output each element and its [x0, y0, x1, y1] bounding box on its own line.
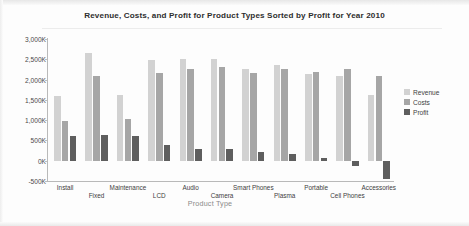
bar-fill — [376, 76, 383, 161]
bar-fill — [274, 65, 281, 161]
bar-profit[interactable] — [132, 39, 139, 181]
bar-revenue[interactable] — [368, 39, 375, 181]
legend-label: Revenue — [413, 89, 439, 96]
bar-group — [368, 39, 390, 181]
bar-fill — [281, 69, 288, 161]
x-axis-tick-label: Audio — [182, 184, 198, 191]
bar-costs[interactable] — [219, 39, 226, 181]
bar-fill — [289, 154, 296, 160]
bar-group — [242, 39, 264, 181]
legend-item[interactable]: Costs — [404, 98, 466, 107]
bar-profit[interactable] — [383, 39, 390, 181]
bar-costs[interactable] — [250, 39, 257, 181]
x-axis-tick-label: Cell Phones — [330, 192, 364, 199]
plot-area — [48, 39, 393, 181]
bar-group — [305, 39, 327, 181]
y-axis-tick-label: 2,500K — [2, 56, 46, 63]
bar-group — [211, 39, 233, 181]
bar-fill — [93, 76, 100, 161]
bar-profit[interactable] — [70, 39, 77, 181]
title-divider — [42, 28, 442, 29]
bar-fill — [344, 69, 351, 161]
y-axis-tick-label: 0K — [2, 157, 46, 164]
x-axis-tick-label: Plasma — [274, 192, 295, 199]
x-axis-tick-label: Accessories — [362, 184, 396, 191]
bar-fill — [336, 76, 343, 160]
bar-costs[interactable] — [156, 39, 163, 181]
bar-fill — [164, 145, 171, 160]
bar-profit[interactable] — [101, 39, 108, 181]
bar-fill — [211, 59, 218, 160]
chart-container: Revenue, Costs, and Profit for Product T… — [0, 0, 469, 226]
x-axis-tick-label: Camera — [211, 192, 234, 199]
y-axis-tick-label: 1,500K — [2, 96, 46, 103]
bar-revenue[interactable] — [148, 39, 155, 181]
x-axis-tick-label: Smart Phones — [233, 184, 274, 191]
bar-fill — [125, 119, 132, 161]
bar-revenue[interactable] — [305, 39, 312, 181]
bar-fill — [62, 121, 69, 161]
legend-swatch-icon — [404, 109, 410, 115]
bar-revenue[interactable] — [117, 39, 124, 181]
y-axis-tick-label: 3,000K — [2, 36, 46, 43]
x-axis-line — [47, 181, 394, 182]
bar-profit[interactable] — [195, 39, 202, 181]
x-axis-tick-label: LCD — [153, 192, 166, 199]
y-axis-tick-label: 1,000K — [2, 117, 46, 124]
bar-profit[interactable] — [226, 39, 233, 181]
bar-fill — [195, 149, 202, 161]
legend-swatch-icon — [404, 99, 410, 105]
x-axis-title: Product Type — [0, 199, 420, 208]
bar-fill — [187, 69, 194, 161]
bar-fill — [321, 158, 328, 160]
bar-revenue[interactable] — [274, 39, 281, 181]
x-axis-tick-label: Portable — [304, 184, 328, 191]
y-axis-tick-label: 500K — [2, 137, 46, 144]
bar-fill — [148, 60, 155, 161]
bar-fill — [180, 59, 187, 161]
bar-group — [274, 39, 296, 181]
scan-artifact-top — [0, 0, 469, 5]
bar-costs[interactable] — [187, 39, 194, 181]
bar-costs[interactable] — [344, 39, 351, 181]
bar-costs[interactable] — [313, 39, 320, 181]
bar-costs[interactable] — [125, 39, 132, 181]
bar-revenue[interactable] — [336, 39, 343, 181]
bar-costs[interactable] — [62, 39, 69, 181]
bar-revenue[interactable] — [242, 39, 249, 181]
bar-fill — [101, 135, 108, 161]
y-axis-tick-label: -500K — [2, 178, 46, 185]
bar-fill — [54, 96, 61, 161]
bar-costs[interactable] — [93, 39, 100, 181]
bar-profit[interactable] — [164, 39, 171, 181]
bar-fill — [368, 95, 375, 161]
bar-group — [117, 39, 139, 181]
legend-item[interactable]: Revenue — [404, 88, 466, 97]
bar-group — [180, 39, 202, 181]
bar-profit[interactable] — [258, 39, 265, 181]
bar-fill — [313, 72, 320, 161]
x-axis-tick-label: Maintenance — [110, 184, 147, 191]
bar-costs[interactable] — [281, 39, 288, 181]
bar-fill — [156, 73, 163, 160]
bar-revenue[interactable] — [85, 39, 92, 181]
bar-fill — [352, 161, 359, 166]
bar-fill — [383, 161, 390, 179]
bar-profit[interactable] — [321, 39, 328, 181]
chart-legend: RevenueCostsProfit — [404, 88, 466, 118]
legend-item[interactable]: Profit — [404, 108, 466, 117]
bar-fill — [250, 73, 257, 161]
bar-group — [148, 39, 170, 181]
bar-group — [85, 39, 107, 181]
bar-fill — [226, 149, 233, 161]
bar-revenue[interactable] — [54, 39, 61, 181]
bar-fill — [70, 136, 77, 161]
bar-fill — [85, 53, 92, 161]
bar-group — [336, 39, 358, 181]
bar-profit[interactable] — [289, 39, 296, 181]
bar-costs[interactable] — [376, 39, 383, 181]
bar-revenue[interactable] — [211, 39, 218, 181]
bar-profit[interactable] — [352, 39, 359, 181]
bar-revenue[interactable] — [180, 39, 187, 181]
legend-label: Costs — [413, 99, 430, 106]
